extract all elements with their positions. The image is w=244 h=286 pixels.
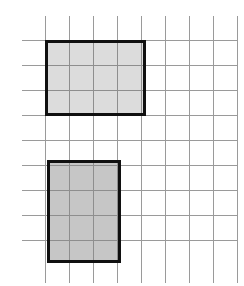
- bottom-rectangle-inner-line-horizontal-8: [50, 240, 118, 241]
- bottom-rectangle-inner-line-vertical-1: [69, 163, 70, 260]
- grid-line-vertical-6: [189, 16, 190, 283]
- bottom-rectangle-inner-line-horizontal-6: [50, 190, 118, 191]
- bottom-rectangle-inner-line-vertical-3: [117, 163, 118, 260]
- top-rectangle-inner-grid: [48, 43, 143, 113]
- grid-line-vertical-5: [165, 16, 166, 283]
- top-rectangle-inner-line-vertical-4: [141, 43, 142, 113]
- grid-line-vertical-7: [213, 16, 214, 283]
- bottom-rectangle-inner-line-horizontal-5: [50, 165, 118, 166]
- top-rectangle: [45, 40, 146, 116]
- grid-line-vertical-8: [237, 16, 238, 283]
- top-rectangle-inner-line-vertical-1: [69, 43, 70, 113]
- grid-line-horizontal-4: [22, 140, 238, 141]
- top-rectangle-inner-line-vertical-2: [93, 43, 94, 113]
- bottom-rectangle-inner-line-horizontal-7: [50, 215, 118, 216]
- bottom-rectangle: [47, 160, 121, 263]
- bottom-rectangle-inner-line-vertical-2: [93, 163, 94, 260]
- top-rectangle-inner-line-horizontal-1: [48, 65, 143, 66]
- grid-figure: [0, 0, 244, 286]
- top-rectangle-inner-line-horizontal-2: [48, 90, 143, 91]
- top-rectangle-inner-line-vertical-3: [117, 43, 118, 113]
- bottom-rectangle-inner-grid: [50, 163, 118, 260]
